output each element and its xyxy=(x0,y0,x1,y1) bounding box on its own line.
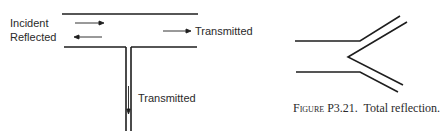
caption-prefix: Figure xyxy=(293,101,324,115)
inner-v-wall xyxy=(348,22,407,85)
reflected-label: Reflected xyxy=(10,31,56,43)
transmitted-stub-label: Transmitted xyxy=(138,92,196,104)
transmitted-main-label: Transmitted xyxy=(195,25,253,37)
figure-caption: Figure P3.21. Total reflection. xyxy=(293,102,440,115)
upper-guide-wall xyxy=(295,16,400,41)
total-reflection-diagram xyxy=(295,16,407,92)
incident-label: Incident xyxy=(10,17,49,29)
caption-number: P3.21. xyxy=(327,101,358,115)
caption-text: Total reflection. xyxy=(364,101,440,115)
